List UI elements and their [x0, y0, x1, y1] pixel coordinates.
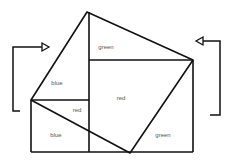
rotation-arrows	[13, 37, 220, 115]
label-green-lower-right: green	[155, 132, 170, 138]
left-arrow-shaft	[13, 47, 42, 111]
right-arrowhead-icon	[196, 37, 203, 45]
label-red-small: red	[73, 107, 82, 113]
proof-diagram	[0, 0, 234, 165]
left-arrowhead-icon	[42, 43, 49, 51]
label-green-top: green	[98, 44, 113, 50]
label-blue-upper-left: blue	[51, 80, 62, 86]
label-blue-lower-left: blue	[50, 132, 61, 138]
label-red-center: red	[117, 95, 126, 101]
right-arrow-shaft	[203, 41, 220, 115]
